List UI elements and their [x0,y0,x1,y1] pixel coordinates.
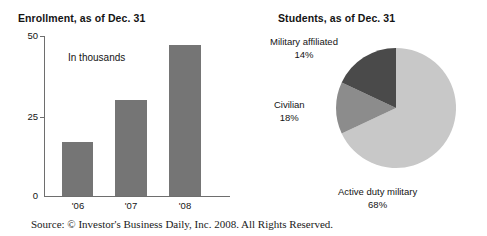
y-axis-tick-label-50: 50 [18,30,38,41]
pie-label-military-affiliated-value: 14% [270,49,338,62]
bar-chart-title: Enrollment, as of Dec. 31 [18,12,145,24]
pie-label-active-duty-military: Active duty military 68% [338,186,417,211]
y-axis-tick-label-0: 0 [18,190,38,201]
y-axis-tick-25 [40,117,45,118]
pie-label-civilian-value: 18% [274,112,305,125]
pie-label-civilian-name: Civilian [274,99,305,110]
source-attribution: Source: © Investor's Business Daily, Inc… [31,218,333,230]
x-axis-category-2006: '06 [57,200,99,211]
infographic-figure: Enrollment, as of Dec. 31 In thousands 5… [0,0,487,236]
pie-chart-panel: Students, as of Dec. 31 Military affilia… [250,0,487,215]
pie-label-active-duty-military-value: 68% [338,199,417,212]
y-axis-tick-label-25: 25 [18,111,38,122]
bar-2006 [62,142,93,196]
y-axis-tick-50 [40,36,45,37]
pie-label-military-affiliated-name: Military affiliated [270,36,338,47]
bar-2007 [115,100,147,196]
bar-chart-units-note: In thousands [68,52,125,63]
bar-chart-panel: Enrollment, as of Dec. 31 In thousands 5… [0,0,250,215]
bar-2008 [169,45,201,196]
pie-label-military-affiliated: Military affiliated 14% [270,36,338,61]
x-axis-category-2008: '08 [164,200,206,211]
pie-label-civilian: Civilian 18% [274,99,305,124]
pie-label-active-duty-military-name: Active duty military [338,186,417,197]
x-axis-line [44,196,230,197]
x-axis-category-2007: '07 [110,200,152,211]
